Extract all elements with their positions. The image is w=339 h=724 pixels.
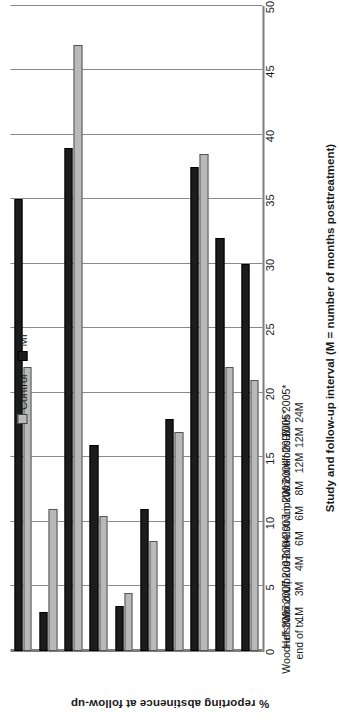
bar-mi [140, 509, 148, 651]
category-axis-title: Study and follow-up interval (M = number… [323, 4, 335, 652]
bar-group [136, 6, 161, 651]
bar-group [86, 6, 111, 651]
bar-mi [215, 238, 223, 651]
legend-label-mi: MI [16, 334, 28, 346]
bar-mi [165, 419, 173, 651]
bar-control [99, 516, 107, 651]
value-tick-30: 30 [263, 259, 275, 271]
chart-legend: Control MI [16, 334, 28, 424]
legend-label-control: Control [16, 375, 28, 410]
category-label-study: Hollis 2005* [279, 385, 291, 441]
legend-swatch-mi-icon [17, 351, 27, 361]
bar-mi [190, 167, 198, 651]
bar-control [73, 45, 81, 651]
bar-mi [64, 148, 72, 651]
value-tick-45: 45 [263, 65, 275, 77]
bar-group [35, 6, 60, 651]
bar-mi [89, 445, 97, 651]
value-tick-0: 0 [263, 649, 275, 655]
value-tick-35: 35 [263, 194, 275, 206]
bar-control [250, 380, 258, 651]
bar-group [237, 6, 262, 651]
legend-swatch-control-icon [17, 414, 27, 424]
bar-control [124, 593, 132, 651]
bar-mi [39, 612, 47, 651]
bar-groups [10, 6, 262, 651]
value-tick-20: 20 [263, 388, 275, 400]
bar-group [60, 6, 85, 651]
bar-control [48, 509, 56, 651]
value-tick-10: 10 [263, 517, 275, 529]
bar-group [10, 6, 35, 651]
bar-mi [14, 200, 22, 652]
value-tick-5: 5 [263, 584, 275, 590]
value-axis-title: % reporting abstinence at follow-up [0, 694, 339, 710]
plot-area [10, 6, 262, 652]
category-label: Hollis 2005*24M [279, 385, 305, 441]
chart-figure: % reporting abstinence at follow-up 0510… [0, 0, 339, 724]
bar-group [186, 6, 211, 651]
bar-control [174, 432, 182, 651]
legend-item-control: Control [16, 375, 28, 424]
bar-control [225, 367, 233, 651]
legend-item-mi: MI [16, 334, 28, 360]
bar-control [149, 541, 157, 651]
value-tick-50: 50 [263, 1, 275, 13]
bar-control [199, 154, 207, 651]
value-axis-ticks: 05101520253035404550 [263, 6, 278, 652]
bar-group [212, 6, 237, 651]
bar-mi [115, 606, 123, 651]
bar-group [161, 6, 186, 651]
value-tick-40: 40 [263, 130, 275, 142]
value-tick-15: 15 [263, 452, 275, 464]
bar-mi [241, 264, 249, 651]
bar-group [111, 6, 136, 651]
category-label-interval: 24M [292, 385, 305, 441]
category-axis-labels: Woodruff 2007end of txHelstrom 20071MWoo… [279, 6, 311, 652]
chart-canvas: % reporting abstinence at follow-up 0510… [0, 0, 339, 724]
value-tick-25: 25 [263, 323, 275, 335]
